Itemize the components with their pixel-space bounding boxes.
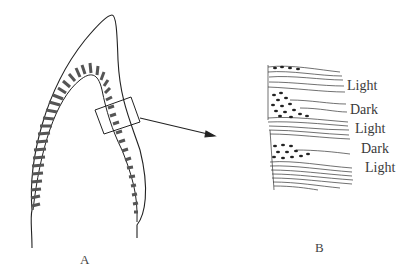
band-label-light-2: Light <box>355 121 385 137</box>
band-label-dark-1: Dark <box>350 102 378 118</box>
band-label-light-1: Light <box>347 78 377 94</box>
diagram-canvas: Light Dark Light Dark Light A B <box>0 0 413 277</box>
dark-band-dots <box>271 66 310 160</box>
panel-label-b: B <box>315 240 324 256</box>
magnification-box <box>95 97 140 134</box>
arrow-icon <box>140 118 215 137</box>
tooth-outline <box>31 15 145 248</box>
band-label-light-3: Light <box>365 160 395 176</box>
magnified-section <box>268 65 353 190</box>
diagram-drawing <box>0 0 413 277</box>
band-label-dark-2: Dark <box>361 141 389 157</box>
panel-label-a: A <box>80 252 89 268</box>
